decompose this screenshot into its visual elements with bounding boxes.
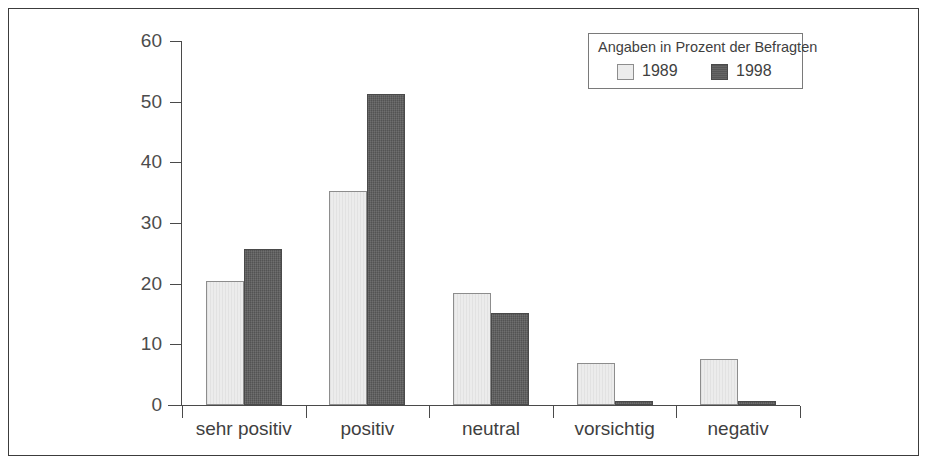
x-tick-1	[306, 406, 307, 418]
y-tick-50	[170, 102, 181, 103]
bar-1989-sehr-positiv[interactable]	[206, 281, 244, 405]
y-tick-20	[170, 284, 181, 285]
legend-swatch-1998-icon	[711, 64, 728, 80]
chart-legend: Angaben in Prozent der Befragten 1989 19…	[588, 33, 803, 89]
x-category-label-neutral: neutral	[429, 419, 553, 440]
x-category-label-negativ: negativ	[676, 419, 800, 440]
y-tick-30	[170, 223, 181, 224]
y-tick-40	[170, 162, 181, 163]
x-category-label-positiv: positiv	[306, 419, 430, 440]
legend-label-1998: 1998	[736, 62, 772, 80]
y-tick-label-10: 10	[122, 334, 162, 353]
legend-title: Angaben in Prozent der Befragten	[598, 39, 817, 55]
x-tick-3	[553, 406, 554, 418]
bar-1998-neutral[interactable]	[491, 313, 529, 405]
bar-1989-vorsichtig[interactable]	[577, 363, 615, 405]
y-tick-label-50: 50	[122, 92, 162, 111]
bar-1998-positiv[interactable]	[367, 94, 405, 405]
y-tick-label-60: 60	[122, 31, 162, 50]
y-tick-60	[170, 41, 181, 42]
y-tick-0	[170, 405, 181, 406]
plot-area	[182, 41, 800, 405]
y-tick-label-30: 30	[122, 213, 162, 232]
y-tick-10	[170, 344, 181, 345]
x-axis-line	[168, 405, 800, 406]
x-category-label-sehr-positiv: sehr positiv	[182, 419, 306, 440]
y-tick-label-40: 40	[122, 152, 162, 171]
bar-1989-neutral[interactable]	[453, 293, 491, 405]
x-tick-4	[676, 406, 677, 418]
bar-group-positiv	[329, 41, 405, 405]
bar-1998-vorsichtig[interactable]	[615, 401, 653, 405]
legend-label-1989: 1989	[642, 62, 678, 80]
chart-page: 0102030405060 sehr positivpositivneutral…	[0, 0, 928, 465]
legend-swatch-1989-icon	[617, 64, 634, 80]
x-tick-2	[429, 406, 430, 418]
bar-group-neutral	[453, 41, 529, 405]
x-category-label-vorsichtig: vorsichtig	[553, 419, 677, 440]
y-tick-label-20: 20	[122, 274, 162, 293]
bar-1998-negativ[interactable]	[738, 401, 776, 405]
x-tick-5	[800, 406, 801, 418]
x-tick-0	[182, 406, 183, 418]
bar-group-sehr-positiv	[206, 41, 282, 405]
y-tick-label-0: 0	[122, 395, 162, 414]
bar-1989-negativ[interactable]	[700, 359, 738, 405]
bar-1989-positiv[interactable]	[329, 191, 367, 405]
bar-group-vorsichtig	[577, 41, 653, 405]
bar-group-negativ	[700, 41, 776, 405]
bar-1998-sehr-positiv[interactable]	[244, 249, 282, 405]
